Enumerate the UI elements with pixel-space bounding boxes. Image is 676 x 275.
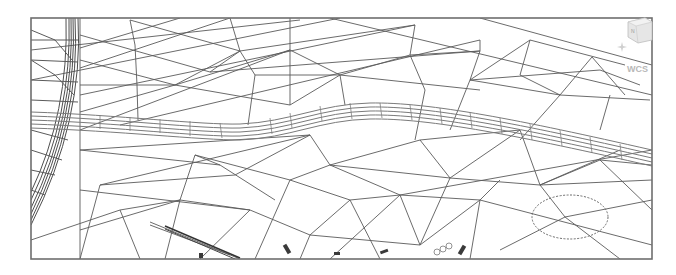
road-corridor [31, 103, 652, 166]
drawing-viewport[interactable]: N WCS [0, 0, 676, 275]
viewport-frame [31, 18, 652, 259]
ucs-label[interactable]: WCS [627, 64, 648, 74]
viewcube-face-label: N [631, 28, 635, 34]
viewcube[interactable]: N [628, 18, 652, 43]
bottom-markers [199, 243, 466, 258]
compass-icon[interactable] [617, 42, 627, 52]
tin-surface-mesh [31, 18, 652, 259]
